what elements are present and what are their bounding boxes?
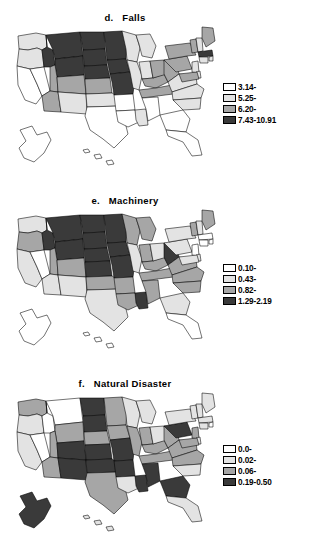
state-fl <box>166 496 202 522</box>
legend-label: 5.25- <box>238 94 256 103</box>
state-fl <box>166 130 202 156</box>
state-ak <box>19 309 51 345</box>
state-sd <box>83 232 107 249</box>
legend-falls: 3.14- 5.25- 6.20- 7.43-10.91 <box>223 82 319 126</box>
legend-row: 7.43-10.91 <box>223 115 319 125</box>
legend-natural-disaster: 0.0- 0.02- 0.06- 0.19-0.50 <box>223 444 319 488</box>
state-co <box>57 75 86 94</box>
state-wy <box>55 422 84 443</box>
state-hi <box>106 526 114 531</box>
state-nd <box>80 32 105 50</box>
state-ar <box>114 460 135 477</box>
figure-three-choropleth-maps: d. Falls 3.14- 5.25- 6.20- 7.43-10.91 <box>0 0 323 548</box>
state-me <box>202 393 215 413</box>
state-hi <box>94 337 102 342</box>
state-nd <box>80 398 105 416</box>
legend-row: 0.02- <box>223 455 319 465</box>
state-hi <box>106 160 114 165</box>
us-states-group <box>17 393 215 531</box>
state-me <box>202 27 215 47</box>
state-hi <box>106 343 114 348</box>
state-ne <box>84 65 110 79</box>
map-machinery <box>6 205 226 363</box>
legend-swatch <box>223 456 236 464</box>
state-ar <box>114 94 135 111</box>
state-nm <box>58 92 87 114</box>
legend-label: 7.43-10.91 <box>238 116 276 125</box>
state-me <box>202 210 215 230</box>
legend-row: 0.82- <box>223 285 319 295</box>
legend-swatch <box>223 467 236 475</box>
state-hi <box>94 154 102 159</box>
state-ak <box>19 492 51 528</box>
state-nm <box>58 458 87 480</box>
state-ar <box>114 277 135 294</box>
state-ri <box>209 239 213 244</box>
panel-natural-disaster: f. Natural Disaster 0.0- 0.02- 0.06- 0.1… <box>0 366 323 548</box>
state-or <box>17 414 44 435</box>
state-ri <box>209 56 213 61</box>
state-ri <box>209 422 213 427</box>
state-ms <box>135 292 148 309</box>
legend-swatch <box>223 478 236 486</box>
us-states-group <box>17 27 215 165</box>
legend-swatch <box>223 94 236 102</box>
legend-row: 3.14- <box>223 82 319 92</box>
state-wy <box>55 239 84 260</box>
us-map-svg-falls <box>6 22 226 180</box>
state-hi <box>94 520 102 525</box>
state-nj <box>192 61 199 73</box>
state-ct <box>199 57 208 63</box>
legend-label: 0.02- <box>238 456 256 465</box>
state-ne <box>84 431 110 445</box>
map-natural-disaster <box>6 388 226 546</box>
legend-label: 0.43- <box>238 275 256 284</box>
us-map-svg-natural-disaster <box>6 388 226 546</box>
us-states-group <box>17 210 215 348</box>
state-hi <box>83 149 90 153</box>
state-nj <box>192 427 199 439</box>
legend-swatch <box>223 275 236 283</box>
legend-swatch <box>223 105 236 113</box>
legend-label: 6.20- <box>238 105 256 114</box>
state-wa <box>18 33 47 50</box>
state-wy <box>55 56 84 77</box>
legend-machinery: 0.10- 0.43- 0.82- 1.29-2.19 <box>223 263 319 307</box>
legend-swatch <box>223 116 236 124</box>
state-fl <box>166 313 202 339</box>
map-falls <box>6 22 226 180</box>
state-ms <box>135 109 148 126</box>
legend-label: 0.10- <box>238 264 256 273</box>
panel-falls: d. Falls 3.14- 5.25- 6.20- 7.43-10.91 <box>0 0 323 183</box>
state-nd <box>80 215 105 233</box>
legend-swatch <box>223 445 236 453</box>
state-ks <box>85 444 112 460</box>
panel-machinery: e. Machinery 0.10- 0.43- 0.82- 1.29-2.19 <box>0 183 323 366</box>
state-nm <box>58 275 87 297</box>
state-sd <box>83 415 107 432</box>
legend-row: 6.20- <box>223 104 319 114</box>
legend-row: 0.0- <box>223 444 319 454</box>
state-ia <box>107 425 130 440</box>
state-co <box>57 258 86 277</box>
state-ga <box>160 476 190 498</box>
state-wa <box>18 216 47 233</box>
legend-swatch <box>223 264 236 272</box>
legend-swatch <box>223 286 236 294</box>
legend-label: 0.19-0.50 <box>238 478 272 487</box>
legend-row: 0.43- <box>223 274 319 284</box>
state-nj <box>192 244 199 256</box>
state-ks <box>85 78 112 94</box>
legend-label: 0.06- <box>238 467 256 476</box>
state-ne <box>84 248 110 262</box>
state-ga <box>160 110 190 132</box>
state-ia <box>107 242 130 257</box>
legend-swatch <box>223 297 236 305</box>
state-or <box>17 231 44 252</box>
state-hi <box>83 515 90 519</box>
state-ct <box>199 423 208 429</box>
state-ga <box>160 293 190 315</box>
state-wa <box>18 399 47 416</box>
legend-swatch <box>223 83 236 91</box>
us-map-svg-machinery <box>6 205 226 363</box>
